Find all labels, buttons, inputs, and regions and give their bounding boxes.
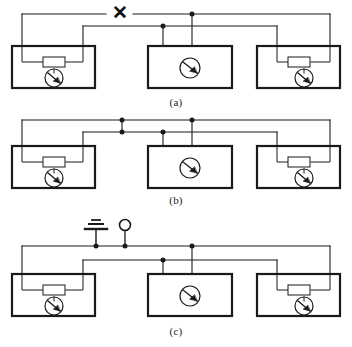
open-circuit-cross-icon: ✕: [112, 3, 128, 22]
resistor-symbol: [43, 285, 65, 295]
junction-dot: [161, 130, 166, 135]
junction-dot: [190, 118, 195, 123]
panel-c-caption: (c): [0, 325, 352, 337]
junction-dot: [161, 24, 166, 29]
panel-c-schematic: [0, 212, 352, 324]
circuit-diagram-figure: ✕ (a): [0, 0, 352, 347]
left-block-wire-in: [22, 274, 44, 290]
junction-dot: [161, 258, 166, 263]
right-block-wire-out: [311, 274, 330, 290]
left-block-wire-out: [64, 146, 83, 162]
junction-dot: [120, 130, 125, 135]
open-terminal-circle: [120, 220, 131, 247]
resistor-symbol: [288, 285, 310, 295]
junction-dot: [120, 118, 125, 123]
earth-ground-symbol: [85, 220, 107, 246]
panel-a-caption: (a): [0, 96, 352, 108]
panel-a-schematic: [0, 0, 352, 95]
right-block-wire-in: [277, 46, 289, 62]
right-block-wire-in: [277, 274, 289, 290]
left-block-wire-in: [22, 46, 44, 62]
right-block-wire-out: [311, 146, 330, 162]
resistor-symbol: [43, 157, 65, 167]
terminal-circle-body: [120, 220, 131, 231]
junction-dot: [123, 244, 128, 249]
panel-b-schematic: [0, 112, 352, 195]
resistor-symbol: [288, 157, 310, 167]
resistor-symbol: [43, 57, 65, 67]
junction-dot: [94, 244, 99, 249]
left-block-wire-out: [64, 274, 83, 290]
panel-b-caption: (b): [0, 194, 352, 206]
right-block-wire-out: [311, 46, 330, 62]
left-block-wire-in: [22, 146, 44, 162]
resistor-symbol: [288, 57, 310, 67]
junction-dot: [190, 12, 195, 17]
left-block-wire-out: [64, 46, 83, 62]
junction-dot: [190, 244, 195, 249]
right-block-wire-in: [277, 146, 289, 162]
